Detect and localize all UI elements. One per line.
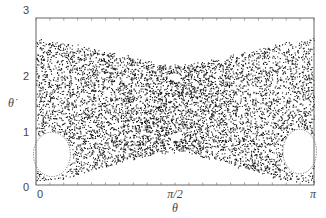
y-tick-label-0: 0 [23, 181, 29, 193]
plot-frame [36, 18, 314, 185]
x-tick-label-0: 0 [37, 188, 43, 200]
island-contour-0 [33, 132, 70, 176]
y-tick-label-2: 2 [23, 70, 29, 82]
phase-portrait-figure: 3 2 1 0 0 π/2 π θ θ̇ [0, 0, 326, 218]
scatter-points [36, 38, 315, 183]
island-contour-1 [283, 129, 317, 173]
y-tick-label-1: 1 [23, 126, 29, 138]
axis-ticks [36, 18, 314, 185]
scatter-point-cloud [36, 38, 315, 183]
x-tick-label-pi: π [310, 187, 317, 201]
y-axis-label: θ̇ [8, 96, 18, 110]
x-tick-label-pi-half: π/2 [167, 187, 182, 201]
x-axis-label: θ [172, 201, 178, 215]
scatter-plot: 3 2 1 0 0 π/2 π θ θ̇ [0, 0, 326, 218]
y-tick-label-3: 3 [23, 4, 29, 16]
